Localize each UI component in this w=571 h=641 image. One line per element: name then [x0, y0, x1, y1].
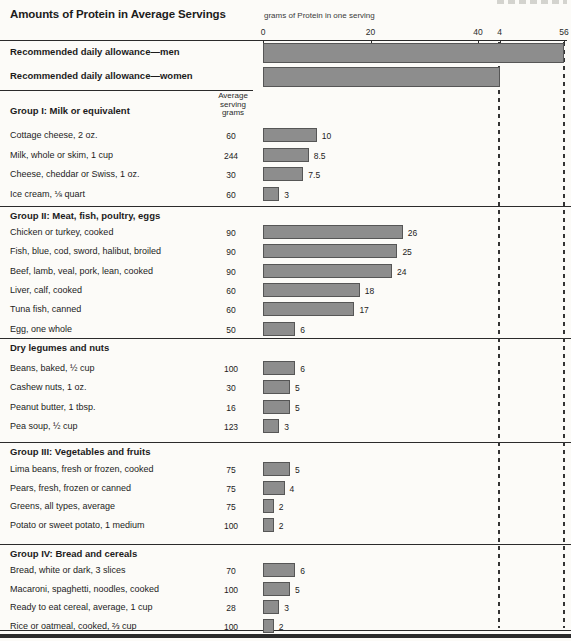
protein-bar — [263, 167, 303, 181]
protein-bar — [263, 600, 279, 614]
food-label: Liver, calf, cooked — [10, 285, 82, 295]
protein-bar — [263, 283, 360, 297]
protein-bar — [263, 518, 274, 532]
protein-bar — [263, 462, 290, 476]
protein-bar — [263, 419, 279, 433]
bar-value-label: 6 — [300, 566, 305, 576]
bar-value-label: 2 — [279, 521, 284, 531]
rda-label-men: Recommended daily allowance—men — [10, 46, 179, 57]
bar-value-label: 6 — [300, 325, 305, 335]
serving-grams: 50 — [200, 325, 262, 335]
section-separator — [0, 442, 571, 443]
serving-grams: 60 — [200, 131, 262, 141]
bar-value-label: 8.5 — [314, 151, 326, 161]
bar-value-label: 3 — [284, 190, 289, 200]
section-separator — [0, 338, 571, 339]
serving-grams: 75 — [200, 484, 262, 494]
serving-grams: 90 — [200, 228, 262, 238]
food-label: Pea soup, ½ cup — [10, 421, 78, 431]
protein-bar — [263, 302, 354, 316]
food-label: Ready to eat cereal, average, 1 cup — [10, 602, 153, 612]
food-label: Beef, lamb, veal, pork, lean, cooked — [10, 266, 153, 276]
grams-column-header: Average serving grams — [203, 92, 263, 118]
section-heading: Dry legumes and nuts — [10, 342, 109, 353]
bar-value-label: 25 — [402, 247, 411, 257]
food-label: Beans, baked, ½ cup — [10, 363, 95, 373]
bar-value-label: 26 — [408, 228, 417, 238]
protein-bar — [263, 244, 397, 258]
rda-bar-women — [263, 67, 500, 87]
axis-tick-label-40: 40 — [473, 27, 482, 37]
protein-bar — [263, 499, 274, 513]
protein-bar — [263, 128, 317, 142]
serving-grams: 28 — [200, 603, 262, 613]
bar-value-label: 5 — [295, 403, 300, 413]
protein-bar — [263, 481, 285, 495]
food-label: Bread, white or dark, 3 slices — [10, 565, 126, 575]
serving-grams: 100 — [200, 622, 262, 632]
food-label: Ice cream, ⅛ quart — [10, 189, 85, 199]
food-label: Peanut butter, 1 tbsp. — [10, 402, 96, 412]
food-label: Potato or sweet potato, 1 medium — [10, 520, 145, 530]
serving-grams: 16 — [200, 403, 262, 413]
section-separator — [0, 206, 571, 207]
rda-label-women: Recommended daily allowance—women — [10, 70, 193, 81]
serving-grams: 75 — [200, 465, 262, 475]
axis-tick-label-20: 20 — [366, 27, 375, 37]
serving-grams: 90 — [200, 267, 262, 277]
protein-bar — [263, 148, 309, 162]
serving-grams: 30 — [200, 383, 262, 393]
bar-value-label: 3 — [284, 422, 289, 432]
food-label: Pears, fresh, frozen or canned — [10, 483, 131, 493]
protein-bar — [263, 582, 290, 596]
food-label: Cashew nuts, 1 oz. — [10, 382, 87, 392]
serving-grams: 70 — [200, 566, 262, 576]
section-heading: Group III: Vegetables and fruits — [10, 446, 150, 457]
bar-value-label: 18 — [365, 286, 374, 296]
section-heading: Group II: Meat, fish, poultry, eggs — [10, 210, 160, 221]
bar-value-label: 2 — [279, 502, 284, 512]
axis-baseline-rule — [0, 40, 567, 41]
food-label: Chicken or turkey, cooked — [10, 227, 113, 237]
bar-value-label: 24 — [397, 267, 406, 277]
bar-value-label: 4 — [290, 484, 295, 494]
food-label: Lima beans, fresh or frozen, cooked — [10, 464, 154, 474]
protein-bar — [263, 380, 290, 394]
bar-value-label: 5 — [295, 465, 300, 475]
serving-grams: 123 — [200, 422, 262, 432]
rule-under-rda — [0, 90, 253, 91]
axis-tick-label-0: 0 — [261, 27, 266, 37]
protein-bar — [263, 187, 279, 201]
bar-value-label: 17 — [359, 305, 368, 315]
protein-bar — [263, 322, 295, 336]
bar-value-label: 5 — [295, 383, 300, 393]
protein-bar — [263, 563, 295, 577]
serving-grams: 100 — [200, 364, 262, 374]
serving-grams: 60 — [200, 305, 262, 315]
serving-grams: 60 — [200, 286, 262, 296]
protein-bar — [263, 264, 392, 278]
section-heading: Group IV: Bread and cereals — [10, 548, 137, 559]
serving-grams: 30 — [200, 170, 262, 180]
bar-value-label: 10 — [322, 131, 331, 141]
grams-column-header-line3: grams — [222, 108, 244, 117]
food-label: Rice or oatmeal, cooked, ⅔ cup — [10, 621, 137, 631]
serving-grams: 100 — [200, 585, 262, 595]
food-label: Egg, one whole — [10, 324, 72, 334]
food-label: Macaroni, spaghetti, noodles, cooked — [10, 584, 159, 594]
clipped-print-artifact — [497, 0, 567, 4]
protein-bar — [263, 619, 274, 633]
food-label: Cheese, cheddar or Swiss, 1 oz. — [10, 169, 140, 179]
food-label: Tuna fish, canned — [10, 304, 81, 314]
food-label: Cottage cheese, 2 oz. — [10, 130, 98, 140]
serving-grams: 90 — [200, 247, 262, 257]
protein-bar — [263, 400, 290, 414]
serving-grams: 60 — [200, 190, 262, 200]
chart-title: Amounts of Protein in Average Servings — [10, 8, 226, 20]
food-label: Fish, blue, cod, sword, halibut, broiled — [10, 246, 161, 256]
food-label: Greens, all types, average — [10, 501, 115, 511]
serving-grams: 100 — [200, 521, 262, 531]
rda-women-line — [498, 42, 500, 628]
food-label: Milk, whole or skim, 1 cup — [10, 150, 113, 160]
serving-grams: 75 — [200, 502, 262, 512]
